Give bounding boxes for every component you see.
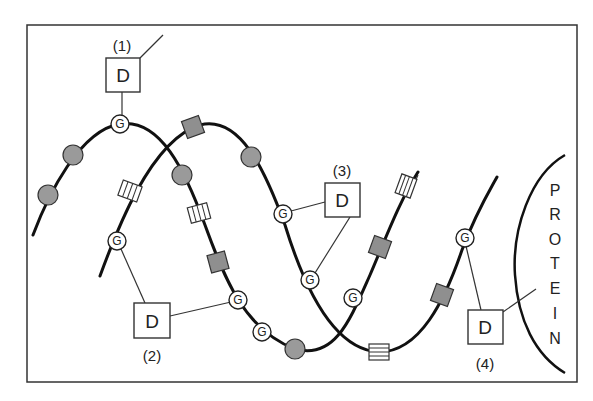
- svg-text:D: D: [478, 317, 492, 338]
- svg-text:G: G: [278, 207, 287, 221]
- svg-text:P: P: [550, 182, 561, 199]
- g-residue: G: [456, 229, 474, 247]
- svg-text:I: I: [553, 305, 557, 322]
- g-residue: G: [111, 115, 129, 133]
- striped-box-icon: [395, 174, 417, 198]
- gray-circle-icon: [241, 147, 261, 167]
- svg-text:D: D: [116, 65, 130, 86]
- link-d4-g: [466, 246, 481, 310]
- g-residue: G: [301, 271, 319, 289]
- gray-square-icon: [181, 115, 204, 138]
- link-d2-gb: [121, 249, 145, 303]
- gray-square-icon: [368, 235, 391, 258]
- gray-circle-icon: [63, 145, 83, 165]
- svg-text:R: R: [549, 206, 561, 223]
- site-label-3: (3): [333, 162, 351, 179]
- svg-text:T: T: [550, 255, 560, 272]
- striped-box-icon: [118, 180, 142, 202]
- svg-text:D: D: [335, 190, 349, 211]
- site-label-4: (4): [476, 355, 494, 372]
- svg-text:G: G: [115, 117, 124, 131]
- svg-text:G: G: [460, 231, 469, 245]
- g-residue: G: [274, 205, 292, 223]
- diagram-canvas: G G G G G G G G: [0, 0, 593, 401]
- site-label-1: (1): [113, 37, 131, 54]
- gray-circle-icon: [285, 339, 305, 359]
- gray-circle-icon: [172, 165, 192, 185]
- svg-text:O: O: [549, 231, 561, 248]
- gray-circle-icon: [38, 185, 58, 205]
- svg-text:G: G: [348, 291, 357, 305]
- svg-text:G: G: [305, 273, 314, 287]
- g-residue: G: [229, 291, 247, 309]
- link-d1-tail: [140, 35, 163, 58]
- svg-text:N: N: [549, 330, 561, 347]
- protein-label: P R O T E I N: [549, 182, 561, 347]
- link-d3-gb2: [315, 217, 350, 273]
- d-box-4: D: [468, 310, 503, 344]
- striped-box-icon: [187, 203, 210, 224]
- svg-text:G: G: [112, 234, 121, 248]
- g-residue: G: [253, 323, 271, 341]
- svg-text:G: G: [233, 293, 242, 307]
- link-d2-ga: [170, 302, 231, 316]
- strand-a: [33, 124, 418, 351]
- svg-text:D: D: [145, 311, 159, 332]
- gray-square-icon: [207, 251, 229, 273]
- d-box-2: D: [134, 303, 170, 338]
- link-d3-gb: [291, 202, 325, 211]
- striped-box-horizontal-icon: [369, 344, 389, 360]
- g-residue: G: [108, 232, 126, 250]
- gray-square-icon: [430, 283, 453, 306]
- d-box-3: D: [325, 183, 360, 217]
- svg-text:E: E: [550, 280, 561, 297]
- d-box-1: D: [106, 58, 140, 92]
- site-label-2: (2): [143, 347, 161, 364]
- g-residue: G: [344, 289, 362, 307]
- svg-text:G: G: [257, 325, 266, 339]
